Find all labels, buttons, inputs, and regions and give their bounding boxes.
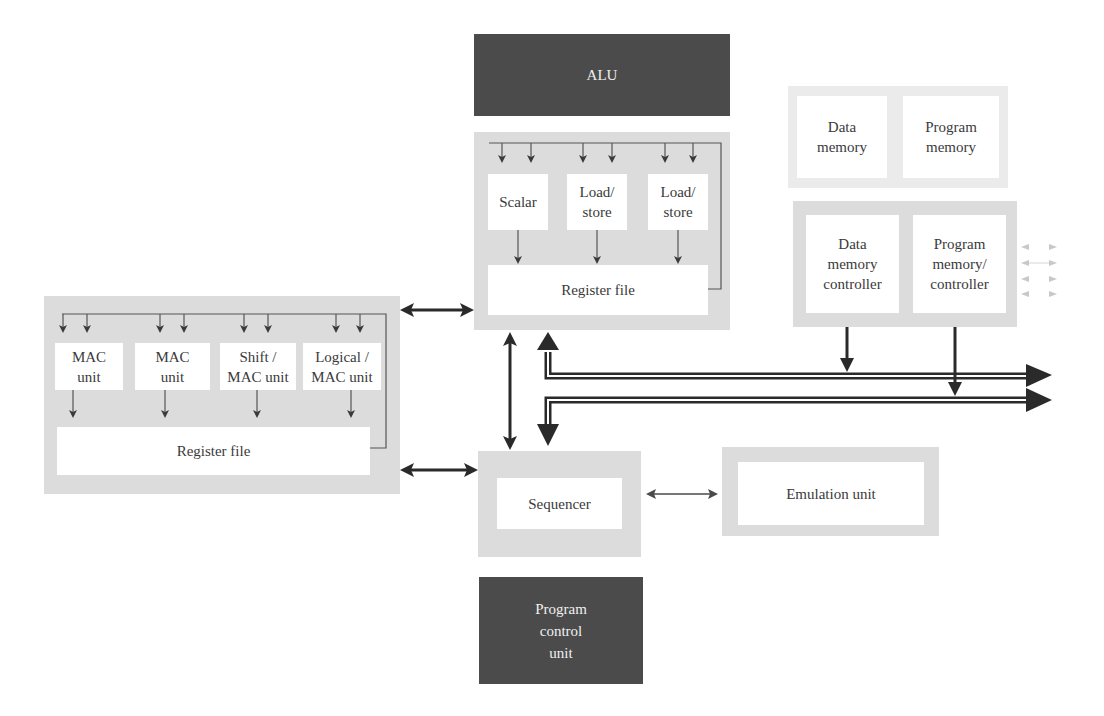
shift-mac-unit: Shift / MAC unit bbox=[220, 343, 296, 390]
top-register-file: Register file bbox=[488, 265, 708, 315]
logical-mac-unit-label: Logical / MAC unit bbox=[311, 347, 372, 387]
scalar-unit: Scalar bbox=[488, 174, 548, 230]
mac-unit-1: MAC unit bbox=[55, 343, 123, 390]
mac-unit-2-label: MAC unit bbox=[155, 347, 189, 387]
data-memory-controller: Data memory controller bbox=[806, 215, 899, 313]
load-store-unit-2: Load/ store bbox=[648, 174, 708, 230]
program-memory: Program memory bbox=[903, 96, 999, 178]
data-memory-controller-label: Data memory controller bbox=[823, 234, 881, 294]
load-store-unit-1: Load/ store bbox=[567, 174, 627, 230]
alu-block: ALU bbox=[474, 34, 730, 116]
program-control-unit-label: Program control unit bbox=[535, 598, 587, 664]
program-memory-controller-label: Program memory/ controller bbox=[930, 234, 988, 294]
sequencer: Sequencer bbox=[497, 478, 622, 529]
data-memory: Data memory bbox=[797, 96, 887, 178]
main-data-bus bbox=[537, 332, 1052, 446]
scalar-unit-label: Scalar bbox=[499, 192, 536, 212]
emulation-unit-label: Emulation unit bbox=[786, 484, 876, 504]
emulation-unit: Emulation unit bbox=[738, 462, 924, 525]
program-control-unit: Program control unit bbox=[479, 577, 643, 684]
program-memory-label: Program memory bbox=[925, 117, 977, 157]
left-register-file-label: Register file bbox=[177, 441, 251, 461]
mac-unit-1-label: MAC unit bbox=[72, 347, 106, 387]
load-store-unit-2-label: Load/ store bbox=[661, 182, 696, 222]
top-register-file-label: Register file bbox=[561, 280, 635, 300]
sequencer-label: Sequencer bbox=[528, 494, 590, 514]
mac-unit-2: MAC unit bbox=[135, 343, 210, 390]
alu-label: ALU bbox=[587, 64, 618, 86]
data-memory-label: Data memory bbox=[817, 117, 867, 157]
external-faint-arrows bbox=[1021, 244, 1057, 297]
shift-mac-unit-label: Shift / MAC unit bbox=[227, 347, 288, 387]
logical-mac-unit: Logical / MAC unit bbox=[303, 343, 381, 390]
program-memory-controller: Program memory/ controller bbox=[913, 215, 1006, 313]
load-store-unit-1-label: Load/ store bbox=[580, 182, 615, 222]
left-register-file: Register file bbox=[57, 427, 370, 475]
